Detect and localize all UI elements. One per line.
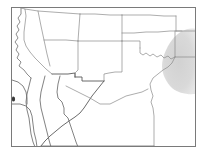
left-edge-marker: [12, 96, 15, 101]
map-canvas: [0, 0, 205, 160]
map-figure: [0, 0, 205, 160]
